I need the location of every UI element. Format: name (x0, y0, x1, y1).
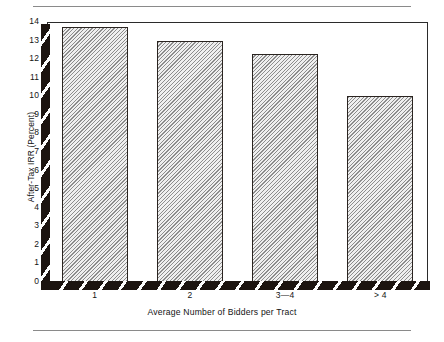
x-axis-tick-label: 1 (47, 290, 142, 301)
y-axis-tick-value: 2 (34, 240, 39, 249)
y-axis-tick-value: 3 (34, 221, 39, 230)
y-axis-tick-value: 9 (34, 110, 39, 119)
y-axis-tick-value: 5 (34, 184, 39, 193)
y-axis-tick-value: 0 (34, 277, 39, 286)
x-axis-tick-label: > 4 (333, 290, 428, 301)
x-axis-tick-labels: 123—4> 4 (47, 290, 428, 308)
y-axis-tick-value: 1 (34, 258, 39, 267)
x-axis-tick-label: 2 (142, 290, 237, 301)
y-axis-tick-value: 12 (29, 54, 39, 63)
y-axis-tick-value: 4 (34, 203, 39, 212)
y-axis-tick-value: 14 (29, 17, 39, 26)
y-axis-tick-value: 11 (30, 73, 39, 82)
x-axis-tick-label: 3—4 (238, 290, 333, 301)
y-axis-tick-value: 6 (34, 166, 39, 175)
y-axis-tick-value: 10 (29, 91, 39, 100)
y-axis-tick-value: 13 (29, 36, 39, 45)
y-axis-tick-value: 8 (34, 128, 39, 137)
y-axis-tick-value: 7 (34, 147, 39, 156)
bar-chart-figure: 01234567891011121314 123—4> 4 After-Tax … (0, 0, 444, 342)
